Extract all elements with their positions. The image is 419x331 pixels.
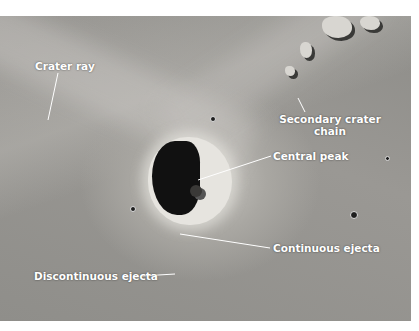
label-secondary-crater-chain-line2: chain (270, 125, 390, 137)
label-secondary-crater-chain: Secondary crater chain (270, 113, 390, 137)
label-secondary-crater-chain-line1: Secondary crater (270, 113, 390, 125)
label-continuous-ejecta: Continuous ejecta (273, 242, 380, 254)
label-central-peak: Central peak (273, 150, 349, 162)
label-discontinuous-ejecta: Discontinuous ejecta (34, 270, 158, 282)
label-crater-ray: Crater ray (35, 60, 95, 72)
